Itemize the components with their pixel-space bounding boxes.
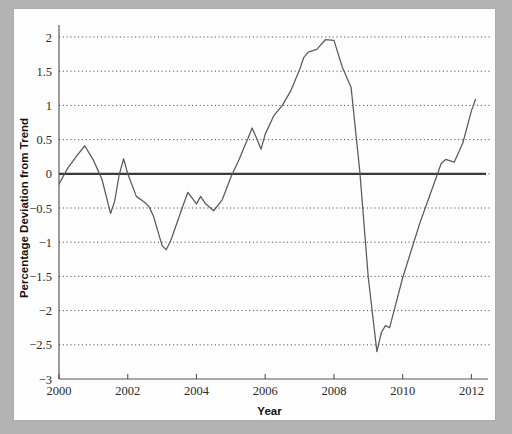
x-axis-title: Year bbox=[257, 405, 282, 417]
y-tick-label: −0.5 bbox=[29, 202, 52, 216]
y-tick-label: 2 bbox=[46, 31, 52, 45]
gridlines-group bbox=[59, 37, 492, 345]
figure-canvas: 21.510.50−0.5−1−1.5−2−2.5−3 200020022004… bbox=[0, 0, 512, 434]
x-tickmarks-group bbox=[59, 374, 471, 379]
x-tick-label: 2008 bbox=[321, 384, 346, 398]
y-tick-label: 1.5 bbox=[36, 65, 52, 79]
axis-spines-group bbox=[59, 25, 488, 379]
data-series-line[interactable] bbox=[59, 40, 476, 352]
y-tick-labels-group: 21.510.50−0.5−1−1.5−2−2.5−3 bbox=[29, 31, 52, 387]
x-tick-label: 2006 bbox=[253, 384, 278, 398]
y-tick-label: −1 bbox=[39, 236, 52, 250]
y-tick-label: 0 bbox=[46, 167, 52, 181]
y-tick-label: −2 bbox=[39, 304, 52, 318]
x-tick-label: 2010 bbox=[390, 384, 415, 398]
y-axis-title: Percentage Deviation from Trend bbox=[18, 118, 30, 298]
y-tick-label: 1 bbox=[46, 99, 52, 113]
x-tick-label: 2000 bbox=[47, 384, 72, 398]
chart-sheet: 21.510.50−0.5−1−1.5−2−2.5−3 200020022004… bbox=[14, 9, 495, 420]
y-tick-label: 0.5 bbox=[36, 133, 52, 147]
x-tick-labels-group: 2000200220042006200820102012 bbox=[47, 384, 484, 398]
line-chart[interactable]: 21.510.50−0.5−1−1.5−2−2.5−3 200020022004… bbox=[14, 9, 495, 420]
y-tick-label: −1.5 bbox=[29, 270, 52, 284]
x-tick-label: 2012 bbox=[459, 384, 484, 398]
x-tick-label: 2002 bbox=[115, 384, 140, 398]
x-tick-label: 2004 bbox=[184, 384, 210, 398]
y-tick-label: −2.5 bbox=[29, 338, 52, 352]
